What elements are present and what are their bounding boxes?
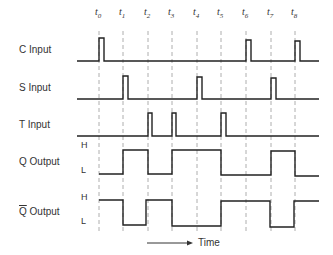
time-marker-t0: t0 <box>95 6 101 20</box>
time-axis-label: Time <box>198 237 220 248</box>
qbar-low-level-label: L <box>81 216 86 226</box>
time-arrow-head-icon <box>187 241 193 246</box>
q-high-level-label: H <box>81 140 88 150</box>
time-marker-t3: t3 <box>168 6 174 20</box>
t-input-label: T Input <box>19 119 50 130</box>
q-output-waveform <box>99 150 319 176</box>
qbar-output-label-rest: Output <box>27 206 60 217</box>
qbar-output-waveform <box>99 200 319 227</box>
c-input-waveform <box>77 38 319 61</box>
time-marker-t1: t1 <box>119 6 125 20</box>
q-low-level-label: L <box>81 165 86 175</box>
q-output-label: Q Output <box>19 156 60 167</box>
qbar-output-label: Q Output <box>19 206 60 217</box>
time-marker-t5: t5 <box>217 6 223 20</box>
qbar-high-level-label: H <box>81 192 88 202</box>
time-marker-t6: t6 <box>242 6 248 20</box>
time-marker-t7: t7 <box>267 6 273 20</box>
qbar-symbol: Q <box>19 206 27 217</box>
time-marker-t8: t8 <box>291 6 297 20</box>
c-input-label: C Input <box>19 44 51 55</box>
s-input-label: S Input <box>19 82 51 93</box>
t-input-waveform <box>77 113 319 136</box>
s-input-waveform <box>77 76 319 99</box>
time-marker-t2: t2 <box>144 6 150 20</box>
time-marker-t4: t4 <box>193 6 199 20</box>
